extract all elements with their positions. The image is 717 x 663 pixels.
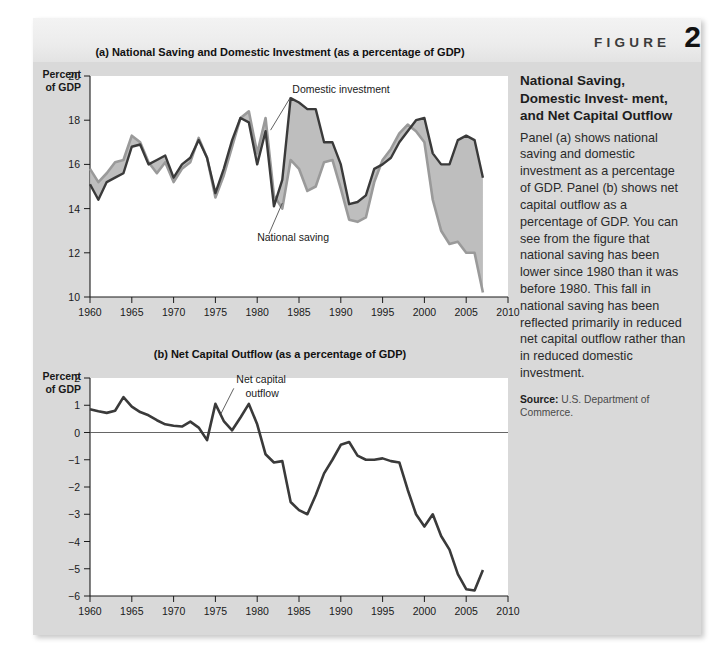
y-tick-label: 20 — [68, 70, 80, 82]
x-tick-label: 2005 — [455, 605, 479, 617]
y-tick-label: 18 — [68, 114, 80, 126]
x-tick-label: 1960 — [78, 605, 102, 617]
y-tick-label: −5 — [68, 563, 80, 575]
chart-b-title: (b) Net Capital Outflow (as a percentage… — [40, 348, 520, 360]
figure-number: 2 — [684, 22, 701, 52]
y-tick-label: 14 — [68, 203, 80, 215]
figure-word-label: FIGURE — [594, 35, 670, 50]
figure-header: FIGURE 2 — [594, 22, 701, 52]
y-tick-label: 16 — [68, 158, 80, 170]
caption-title: National Saving, Domestic Invest- ment, … — [520, 72, 688, 125]
figure-page: FIGURE 2 (a) National Saving and Domesti… — [0, 0, 717, 663]
y-tick-label: 2 — [74, 372, 80, 384]
x-tick-label: 1990 — [329, 605, 353, 617]
chart-b-plot: Percentof GDP−6−5−4−3−2−1012196019651970… — [40, 364, 520, 626]
y-tick-label: −6 — [68, 590, 80, 602]
chart-panel-a: (a) National Saving and Domestic Investm… — [40, 46, 520, 336]
y-tick-label: 1 — [74, 399, 80, 411]
caption-source: Source: U.S. Department of Commerce. — [520, 393, 688, 420]
y-tick-label: −4 — [68, 536, 80, 548]
x-tick-label: 1970 — [162, 306, 186, 318]
x-tick-label: 2000 — [413, 306, 437, 318]
x-tick-label: 1985 — [287, 605, 311, 617]
y-tick-label: 10 — [68, 291, 80, 303]
y-tick-label: −3 — [68, 508, 80, 520]
chart-a-svg: Percentof GDP101214161820196019651970197… — [40, 62, 520, 327]
plot-background — [90, 378, 508, 596]
x-tick-label: 2010 — [496, 605, 520, 617]
y-axis-title-line2: of GDP — [45, 81, 81, 93]
x-tick-label: 1995 — [371, 306, 395, 318]
y-tick-label: 0 — [74, 427, 80, 439]
x-tick-label: 1960 — [78, 306, 102, 318]
x-tick-label: 1970 — [162, 605, 186, 617]
x-tick-label: 1965 — [120, 306, 144, 318]
source-label: Source: — [520, 394, 558, 405]
x-tick-label: 2000 — [413, 605, 437, 617]
chart-annotation: Net capital — [236, 373, 286, 385]
x-tick-label: 1975 — [204, 605, 228, 617]
chart-a-plot: Percentof GDP101214161820196019651970197… — [40, 62, 520, 327]
x-tick-label: 1985 — [287, 306, 311, 318]
chart-annotation: outflow — [245, 387, 279, 399]
chart-annotation: National saving — [257, 231, 329, 243]
chart-annotation: Domestic investment — [292, 83, 390, 95]
chart-a-title: (a) National Saving and Domestic Investm… — [40, 46, 520, 58]
y-tick-label: 12 — [68, 247, 80, 259]
y-tick-label: −1 — [68, 454, 80, 466]
x-tick-label: 2005 — [455, 306, 479, 318]
chart-panel-b: (b) Net Capital Outflow (as a percentage… — [40, 348, 520, 633]
x-tick-label: 2010 — [496, 306, 520, 318]
y-axis-title-line2: of GDP — [45, 383, 81, 395]
x-tick-label: 1980 — [246, 605, 270, 617]
x-tick-label: 1975 — [204, 306, 228, 318]
y-tick-label: −2 — [68, 481, 80, 493]
x-tick-label: 1995 — [371, 605, 395, 617]
x-tick-label: 1980 — [246, 306, 270, 318]
caption-body: Panel (a) shows national saving and dome… — [520, 130, 688, 382]
x-tick-label: 1990 — [329, 306, 353, 318]
figure-caption-sidebar: National Saving, Domestic Invest- ment, … — [520, 72, 688, 420]
x-tick-label: 1965 — [120, 605, 144, 617]
chart-b-svg: Percentof GDP−6−5−4−3−2−1012196019651970… — [40, 364, 520, 626]
